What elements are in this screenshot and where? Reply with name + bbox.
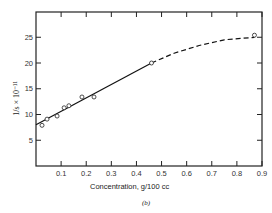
x-tick-label: 0.4 bbox=[131, 169, 141, 178]
data-point bbox=[150, 61, 154, 65]
data-point bbox=[45, 117, 49, 121]
linear-fit-line bbox=[36, 63, 152, 125]
figure-caption: (b) bbox=[142, 199, 150, 207]
x-tick-label: 0.1 bbox=[56, 169, 66, 178]
data-point bbox=[92, 95, 96, 99]
x-tick-label: 0.6 bbox=[181, 169, 191, 178]
y-axis-label: 1/s × 10⁻¹¹ bbox=[4, 70, 28, 130]
extrapolated-dashed-curve bbox=[152, 37, 255, 63]
data-point bbox=[62, 106, 66, 110]
y-tick-label: 20 bbox=[25, 59, 33, 68]
y-tick-label: 5 bbox=[29, 136, 33, 145]
data-point bbox=[80, 95, 84, 99]
data-point bbox=[252, 33, 256, 37]
x-tick-label: 0.9 bbox=[257, 169, 267, 178]
x-tick-label: 0.7 bbox=[207, 169, 217, 178]
data-point bbox=[67, 104, 71, 108]
x-tick-label: 0.5 bbox=[156, 169, 166, 178]
y-tick-label: 25 bbox=[25, 33, 33, 42]
plot-frame bbox=[36, 12, 262, 166]
x-tick-label: 0.3 bbox=[106, 169, 116, 178]
x-tick-label: 0.2 bbox=[81, 169, 91, 178]
data-point bbox=[40, 123, 44, 127]
data-point bbox=[55, 114, 59, 118]
x-tick-label: 0.8 bbox=[232, 169, 242, 178]
x-axis-label: Concentration, g/100 cc bbox=[90, 182, 169, 191]
